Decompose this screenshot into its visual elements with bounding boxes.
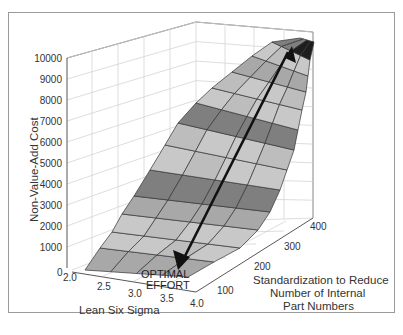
x-axis-label: Lean Six Sigma [79,304,160,316]
x-tick-label: 4.0 [190,298,204,309]
cost-surface [85,38,314,277]
x-tick-label: 2.0 [63,272,77,283]
surface-chart: 1000200030004000500060007000800090001000… [0,0,403,335]
y-axis-label-line2: Number of Internal [270,287,365,299]
z-tick-label: 5000 [40,158,63,169]
x-tick-label: 3.0 [128,288,142,299]
z-tick-label: 1000 [40,242,63,253]
y-axis-label-line1: Standardization to Reduce [253,274,389,286]
z-tick-label: 2000 [40,221,63,232]
x-tick-label: 3.5 [160,293,174,304]
y-tick-label: 100 [217,285,234,296]
z-tick-label: 4000 [40,179,63,190]
z-tick-label: 9000 [40,74,63,85]
z-tick-label: 3000 [40,200,63,211]
z-axis-label: Non-Value-Add Cost [28,117,40,222]
z-tick-label: 7000 [40,116,63,127]
optimal-label-line2: EFFORT [146,279,190,291]
y-axis-label-line3: Part Numbers [283,300,354,312]
y-tick-label: 300 [284,241,301,252]
x-tick-label: 2.5 [97,281,111,292]
y-tick-label: 200 [254,261,271,272]
y-tick-label: 400 [310,221,327,232]
z-tick-label: 10000 [34,53,62,64]
z-tick-label: 6000 [40,137,63,148]
z-tick-label: 8000 [40,95,63,106]
